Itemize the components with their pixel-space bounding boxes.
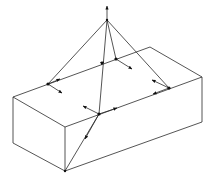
point-p4 xyxy=(167,86,170,89)
p5-arrow-down-edge xyxy=(85,114,99,139)
p5-arrow-along xyxy=(99,108,117,114)
box-force-diagram xyxy=(0,0,210,185)
p5-arrow-in xyxy=(83,106,99,114)
p1-arrow-out xyxy=(48,84,62,93)
p4-arrow-along xyxy=(153,88,169,94)
line-apex-p3 xyxy=(107,20,116,59)
point-bottom xyxy=(64,170,66,172)
point-p5 xyxy=(97,112,100,115)
line-apex-p5 xyxy=(99,20,107,114)
box-top-face xyxy=(13,47,202,127)
point-p3 xyxy=(114,57,117,60)
p4-arrow-in xyxy=(152,80,169,88)
box-edge-bottom-right xyxy=(65,122,202,171)
point-p1 xyxy=(46,82,49,85)
line-apex-p4 xyxy=(107,20,169,88)
point-apex xyxy=(106,19,108,21)
p3-arrow-out xyxy=(116,59,132,69)
point-p2 xyxy=(101,62,104,65)
box-edge-bottom-left xyxy=(13,143,65,171)
line-apex-p1 xyxy=(48,20,107,84)
box xyxy=(13,47,202,171)
